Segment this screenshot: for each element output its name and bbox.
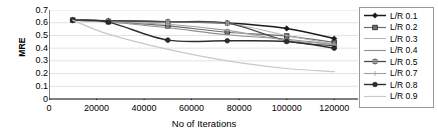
plot-svg [49, 10, 358, 100]
legend-label: L/R 0.7 [390, 69, 417, 78]
x-tick-label: 20000 [84, 104, 109, 113]
x-axis-title: No of Iterations [48, 118, 360, 129]
x-tick-label: 80000 [227, 104, 252, 113]
x-tick-label: 100000 [272, 104, 302, 113]
legend-marker-icon [363, 33, 387, 44]
legend-item[interactable]: L/R 0.5 [360, 56, 433, 68]
legend-marker-icon [363, 68, 387, 79]
legend-marker-icon [363, 91, 387, 102]
legend-marker-icon [363, 45, 387, 56]
chart-legend: L/R 0.1L/R 0.2L/R 0.3L/R 0.4L/R 0.5L/R 0… [359, 7, 434, 108]
legend-label: L/R 0.3 [390, 35, 417, 44]
legend-label: L/R 0.2 [390, 23, 417, 32]
x-tick-label: 40000 [132, 104, 157, 113]
legend-item[interactable]: L/R 0.9 [360, 91, 433, 103]
legend-item[interactable]: L/R 0.4 [360, 45, 433, 57]
legend-item[interactable]: L/R 0.7 [360, 68, 433, 80]
legend-marker-icon [363, 22, 387, 33]
x-tick-label: 120000 [319, 104, 349, 113]
legend-item[interactable]: L/R 0.1 [360, 10, 433, 22]
legend-marker-icon [363, 56, 387, 67]
legend-item[interactable]: L/R 0.8 [360, 79, 433, 91]
x-tick-label: 60000 [179, 104, 204, 113]
chart-figure: MRE 00.10.20.30.40.50.60.7 0200004000060… [0, 0, 438, 136]
legend-marker-icon [363, 10, 387, 21]
x-tick-label: 0 [46, 104, 51, 113]
legend-label: L/R 0.9 [390, 92, 417, 101]
legend-marker-icon [363, 79, 387, 90]
legend-label: L/R 0.1 [390, 12, 417, 21]
legend-label: L/R 0.8 [390, 81, 417, 90]
legend-item[interactable]: L/R 0.2 [360, 22, 433, 34]
legend-label: L/R 0.4 [390, 46, 417, 55]
legend-label: L/R 0.5 [390, 58, 417, 67]
legend-item[interactable]: L/R 0.3 [360, 33, 433, 45]
plot-area [49, 10, 358, 99]
